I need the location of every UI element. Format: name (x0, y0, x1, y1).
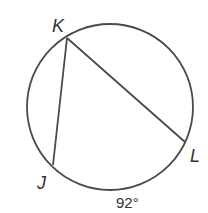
arc-measure-label: 92° (116, 194, 139, 211)
point-label-j: J (36, 173, 47, 193)
point-label-l: L (190, 146, 200, 166)
point-label-k: K (52, 16, 65, 36)
circle (27, 24, 193, 190)
chord-kj (53, 38, 67, 165)
chord-kl (67, 38, 185, 142)
circle-diagram: K J L 92° (0, 0, 208, 213)
